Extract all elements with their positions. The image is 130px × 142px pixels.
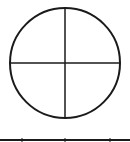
quartered-circle-diagram xyxy=(0,0,130,142)
